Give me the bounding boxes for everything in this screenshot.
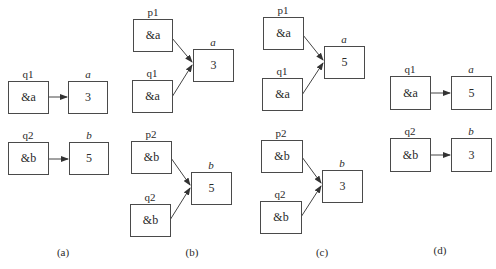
variable-box-b: 5 bbox=[191, 172, 232, 205]
pointer-box-q2: &b bbox=[390, 138, 431, 172]
pointer-label-p1: p1 bbox=[263, 4, 303, 16]
arrow-p2-to-b bbox=[302, 157, 321, 183]
pointer-box-p1: &a bbox=[133, 19, 173, 52]
pointer-box-p1: &a bbox=[263, 17, 304, 50]
variable-box-b: 5 bbox=[69, 142, 109, 175]
pointer-box-q1: &a bbox=[8, 81, 49, 114]
arrow-q1-to-a bbox=[302, 63, 323, 95]
pointer-label-q2: q2 bbox=[390, 125, 430, 137]
variable-box-a: 5 bbox=[451, 76, 492, 110]
arrow-p2-to-b bbox=[171, 158, 190, 185]
pointer-box-q1: &a bbox=[132, 80, 173, 113]
variable-label-a: a bbox=[68, 68, 108, 80]
variable-label-b: b bbox=[69, 129, 109, 141]
variable-box-b: 3 bbox=[322, 170, 363, 203]
caption-d: (d) bbox=[420, 244, 460, 256]
pointer-box-p2: &b bbox=[261, 140, 303, 173]
pointer-box-q1: &a bbox=[262, 78, 303, 111]
arrow-q2-to-b bbox=[170, 188, 190, 220]
pointer-label-p2: p2 bbox=[261, 127, 301, 139]
variable-label-b: b bbox=[322, 157, 362, 169]
arrow-q1-to-a bbox=[172, 65, 192, 97]
arrow-p1-to-a bbox=[303, 35, 323, 60]
pointer-box-q1: &a bbox=[390, 76, 431, 110]
variable-box-a: 3 bbox=[193, 49, 234, 82]
variable-box-b: 3 bbox=[451, 138, 492, 172]
pointer-label-q2: q2 bbox=[260, 188, 300, 200]
arrow-q2-to-b bbox=[301, 186, 321, 217]
pointer-box-p2: &b bbox=[131, 141, 172, 174]
pointer-label-q1: q1 bbox=[8, 68, 48, 80]
variable-box-a: 5 bbox=[324, 46, 365, 79]
arrow-p1-to-a bbox=[172, 38, 192, 62]
pointer-label-p2: p2 bbox=[131, 128, 171, 140]
pointer-label-q1: q1 bbox=[390, 63, 430, 75]
pointer-box-q2: &b bbox=[130, 204, 171, 237]
caption-b: (b) bbox=[172, 246, 212, 258]
pointer-label-q1: q1 bbox=[262, 65, 302, 77]
variable-box-a: 3 bbox=[68, 81, 108, 114]
caption-a: (a) bbox=[43, 246, 83, 258]
caption-c: (c) bbox=[302, 246, 342, 258]
variable-label-a: a bbox=[324, 33, 364, 45]
variable-label-b: b bbox=[191, 159, 231, 171]
pointer-box-q2: &b bbox=[260, 201, 302, 234]
pointer-box-q2: &b bbox=[8, 142, 49, 175]
variable-label-b: b bbox=[451, 125, 491, 137]
variable-label-a: a bbox=[193, 36, 233, 48]
pointer-label-p1: p1 bbox=[133, 6, 173, 18]
variable-label-a: a bbox=[451, 63, 491, 75]
pointer-label-q2: q2 bbox=[8, 129, 48, 141]
pointer-label-q1: q1 bbox=[132, 67, 172, 79]
pointer-label-q2: q2 bbox=[130, 191, 170, 203]
